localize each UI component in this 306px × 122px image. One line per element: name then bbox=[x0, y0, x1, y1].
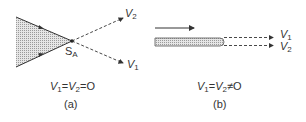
label-v2-a: V2 bbox=[125, 7, 137, 21]
label-v2-b: V2 bbox=[280, 40, 292, 54]
label-v1-a: V1 bbox=[127, 58, 139, 72]
diagram-canvas bbox=[0, 0, 306, 122]
lower-edge-arrow-icon bbox=[39, 53, 45, 57]
dashed-line-v1 bbox=[72, 41, 123, 63]
dashed-line-v2 bbox=[72, 18, 123, 41]
wedge-region bbox=[16, 17, 72, 67]
panel-a-figure bbox=[16, 17, 123, 67]
equation-b: V1=V2≠O bbox=[197, 80, 242, 94]
label-stagnation-point: SA bbox=[65, 45, 78, 59]
panel-b-figure bbox=[155, 28, 273, 46]
upper-edge-arrow-icon bbox=[39, 25, 45, 29]
caption-a: (a) bbox=[64, 98, 77, 110]
equation-a: V1=V2=O bbox=[50, 80, 95, 94]
flat-plate bbox=[155, 38, 224, 46]
caption-b: (b) bbox=[213, 98, 226, 110]
